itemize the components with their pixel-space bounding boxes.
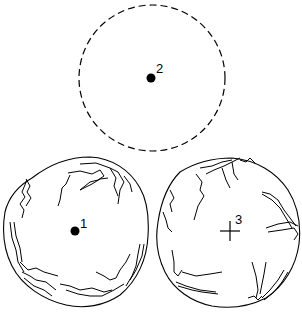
crack: [14, 222, 22, 262]
crack: [80, 178, 108, 190]
crack: [26, 179, 31, 206]
crack: [264, 272, 288, 300]
crack: [178, 286, 218, 294]
crack: [260, 262, 266, 294]
crack: [248, 296, 262, 300]
crack: [163, 212, 172, 232]
crack: [222, 168, 230, 188]
crack: [172, 250, 182, 276]
figure-cracked-sphere-left: 1: [4, 157, 149, 307]
crack: [58, 175, 70, 206]
diagram-canvas: 2 1: [0, 0, 302, 312]
crack: [252, 262, 258, 298]
figure-dashed-circle: 2: [79, 5, 225, 151]
figure-cracked-sphere-right: 3: [157, 158, 300, 307]
crack: [110, 168, 118, 196]
sphere-right-outline: [157, 158, 300, 307]
crack: [66, 284, 124, 296]
crack: [96, 254, 130, 280]
crack: [268, 228, 298, 240]
crack: [80, 163, 124, 204]
point-2-label: 2: [156, 61, 163, 76]
crack: [232, 162, 238, 180]
crack: [194, 174, 204, 220]
point-1-label: 1: [80, 216, 87, 231]
crack: [124, 176, 132, 192]
crack: [182, 272, 222, 276]
point-1-dot-icon: [71, 227, 80, 236]
point-3-label: 3: [235, 212, 242, 227]
crack: [170, 190, 174, 212]
point-2-dot-icon: [147, 74, 156, 83]
